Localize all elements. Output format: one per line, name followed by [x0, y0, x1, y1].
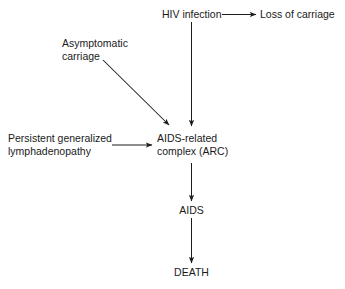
node-aids-related-complex-line-2: complex (ARC) [157, 145, 228, 158]
hiv-progression-diagram: HIV infection Loss of carriage Asymptoma… [0, 0, 345, 289]
node-persistent-generalized-lymphadenopathy: Persistent generalized lymphadenopathy [8, 132, 112, 157]
node-loss-of-carriage-line-1: Loss of carriage [260, 8, 335, 21]
node-asymptomatic-carriage: Asymptomatic carriage [62, 37, 128, 62]
node-aids: AIDS [161, 204, 222, 217]
node-aids-related-complex-line-1: AIDS-related [157, 132, 228, 145]
node-pgl-line-2: lymphadenopathy [8, 145, 112, 158]
edge-asymptomatic-carriage-to-arc [103, 60, 169, 125]
node-aids-line-1: AIDS [161, 204, 222, 217]
node-death: DEATH [161, 266, 222, 279]
node-hiv-infection: HIV infection [162, 8, 222, 21]
node-loss-of-carriage: Loss of carriage [260, 8, 335, 21]
node-asymptomatic-carriage-line-1: Asymptomatic [62, 37, 128, 50]
node-hiv-infection-line-1: HIV infection [162, 8, 222, 21]
node-pgl-line-1: Persistent generalized [8, 132, 112, 145]
node-aids-related-complex: AIDS-related complex (ARC) [157, 132, 228, 157]
node-death-line-1: DEATH [161, 266, 222, 279]
node-asymptomatic-carriage-line-2: carriage [62, 50, 128, 63]
